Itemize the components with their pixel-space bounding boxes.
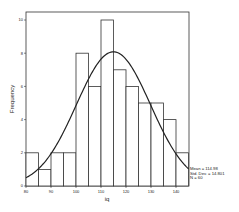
x-tick-label: 100 xyxy=(73,189,80,194)
histogram-bar xyxy=(26,153,39,186)
histogram-bar xyxy=(64,153,77,186)
y-axis: 0246810 xyxy=(19,17,26,188)
y-tick-label: 4 xyxy=(21,117,24,122)
x-tick-label: 90 xyxy=(49,189,54,194)
stats-line: N = 60 xyxy=(190,175,203,180)
histogram-bar xyxy=(139,103,152,186)
histogram-bar xyxy=(89,86,102,186)
histogram-bar xyxy=(51,153,64,186)
histogram-bar xyxy=(126,86,139,186)
x-axis: 8090100110120130140 xyxy=(24,186,180,194)
y-axis-title: Frequency xyxy=(9,85,15,113)
x-tick-label: 140 xyxy=(173,189,180,194)
histogram-bar xyxy=(151,103,164,186)
x-tick-label: 80 xyxy=(24,189,29,194)
histogram-bar xyxy=(176,153,189,186)
histogram-bar xyxy=(39,169,52,186)
y-tick-label: 8 xyxy=(21,51,24,56)
x-axis-title: iq xyxy=(105,196,110,202)
histogram-bar xyxy=(164,120,177,186)
histogram-bar xyxy=(76,53,89,186)
histogram-chart: 8090100110120130140 0246810 iq Frequency… xyxy=(0,0,239,212)
histogram-bar xyxy=(114,70,127,186)
y-tick-label: 10 xyxy=(19,17,24,22)
x-tick-label: 130 xyxy=(148,189,155,194)
histogram-bar xyxy=(101,20,114,186)
y-tick-label: 2 xyxy=(21,150,24,155)
y-tick-label: 6 xyxy=(21,84,24,89)
stats-annotation: Mean = 114.98Std. Dev. = 14.801N = 60 xyxy=(190,166,225,180)
x-tick-label: 110 xyxy=(98,189,105,194)
x-tick-label: 120 xyxy=(123,189,130,194)
